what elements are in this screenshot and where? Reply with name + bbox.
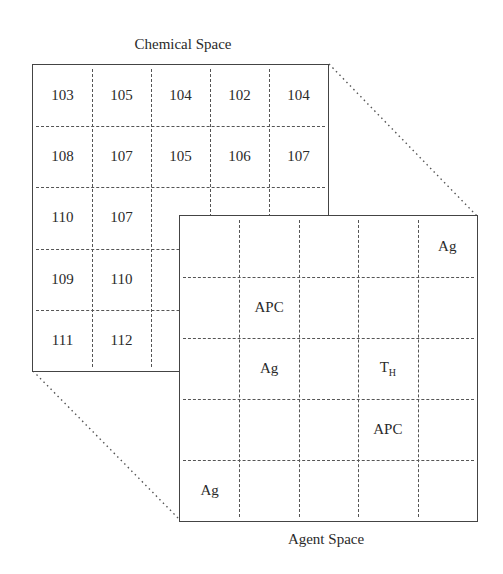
chem-cell: 112 bbox=[92, 310, 151, 371]
agent-cell-value: APC bbox=[373, 421, 402, 438]
chem-cell: 111 bbox=[33, 310, 92, 371]
agent-cell-value: APC bbox=[254, 299, 283, 316]
agent-cell bbox=[299, 460, 358, 521]
agent-cell bbox=[358, 216, 417, 277]
chem-cell: 102 bbox=[210, 65, 269, 126]
agent-space-grid: AgAPCAgTHAPCAg bbox=[179, 215, 478, 522]
chem-cell: 104 bbox=[269, 65, 328, 126]
chem-cell: 105 bbox=[92, 65, 151, 126]
chem-cell-value: 105 bbox=[169, 148, 192, 165]
agent-cell bbox=[239, 216, 298, 277]
chem-cell: 110 bbox=[33, 187, 92, 248]
agent-cell-value: Ag bbox=[201, 482, 219, 499]
agent-cell bbox=[418, 338, 477, 399]
chem-cell-value: 108 bbox=[51, 148, 74, 165]
agent-cell bbox=[180, 399, 239, 460]
chem-cell: 110 bbox=[92, 249, 151, 310]
agent-cell bbox=[180, 277, 239, 338]
agent-cell bbox=[180, 216, 239, 277]
agent-cell bbox=[299, 338, 358, 399]
agent-cell bbox=[299, 277, 358, 338]
agent-space-title: Agent Space bbox=[256, 531, 396, 548]
agent-cell bbox=[418, 460, 477, 521]
chem-cell-value: 105 bbox=[110, 87, 133, 104]
agent-cell: APC bbox=[239, 277, 298, 338]
chem-cell: 106 bbox=[210, 126, 269, 187]
agent-cell-value: Ag bbox=[260, 360, 278, 377]
agent-cell: TH bbox=[358, 338, 417, 399]
chem-cell: 103 bbox=[33, 65, 92, 126]
agent-cell: Ag bbox=[239, 338, 298, 399]
chem-cell-value: 107 bbox=[110, 148, 133, 165]
chem-cell-value: 104 bbox=[169, 87, 192, 104]
chem-cell: 107 bbox=[92, 187, 151, 248]
chem-cell-value: 104 bbox=[287, 87, 310, 104]
agent-cell-value: Ag bbox=[438, 238, 456, 255]
chem-cell: 104 bbox=[151, 65, 210, 126]
agent-cell: Ag bbox=[180, 460, 239, 521]
agent-cell: APC bbox=[358, 399, 417, 460]
chem-cell-value: 106 bbox=[228, 148, 251, 165]
chem-cell-value: 110 bbox=[111, 271, 133, 288]
agent-cell bbox=[358, 460, 417, 521]
agent-cell bbox=[358, 277, 417, 338]
agent-cell bbox=[239, 460, 298, 521]
agent-cell bbox=[418, 399, 477, 460]
agent-cell bbox=[299, 216, 358, 277]
chem-cell: 108 bbox=[33, 126, 92, 187]
agent-cell bbox=[418, 277, 477, 338]
chem-cell: 105 bbox=[151, 126, 210, 187]
agent-cell: Ag bbox=[418, 216, 477, 277]
agent-cell bbox=[299, 399, 358, 460]
agent-cell bbox=[239, 399, 298, 460]
chem-cell-value: 109 bbox=[51, 271, 74, 288]
chem-cell: 107 bbox=[269, 126, 328, 187]
chem-cell-value: 110 bbox=[52, 209, 74, 226]
chem-cell-value: 107 bbox=[287, 148, 310, 165]
chem-cell: 107 bbox=[92, 126, 151, 187]
chemical-space-title: Chemical Space bbox=[113, 36, 253, 53]
agent-cell bbox=[180, 338, 239, 399]
chem-cell-value: 103 bbox=[51, 87, 74, 104]
chem-cell-value: 107 bbox=[110, 209, 133, 226]
chem-cell-value: 102 bbox=[228, 87, 251, 104]
th-subscript: H bbox=[389, 367, 396, 378]
th-cell-label: TH bbox=[380, 359, 396, 378]
chem-cell-value: 111 bbox=[52, 332, 73, 349]
chem-cell-value: 112 bbox=[111, 332, 133, 349]
chem-cell: 109 bbox=[33, 249, 92, 310]
